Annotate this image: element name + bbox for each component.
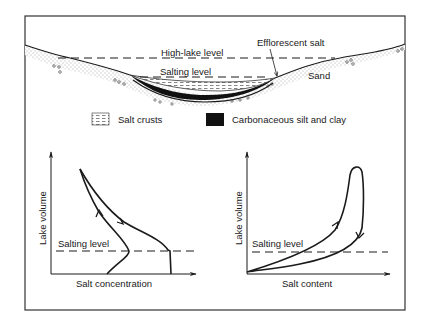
x-axis-label: Salt concentration <box>76 278 152 289</box>
salt-crusts-swatch <box>92 113 109 125</box>
salting-level-label: Salting level <box>58 238 109 249</box>
direction-arrow-up <box>332 222 338 229</box>
efflorescent-salt-label: Efflorescent salt <box>257 37 325 48</box>
sand-label: Sand <box>308 70 330 81</box>
y-axis-label: Lake volume <box>37 191 48 245</box>
carbonaceous-silt-swatch <box>206 113 224 126</box>
x-axis-label: Salt content <box>282 278 333 289</box>
diagram-canvas: High-lake level Salting level Effloresce… <box>0 0 425 324</box>
graph-salt-content: Salting level Lake volume Salt content <box>233 152 390 289</box>
legend-carbonaceous-label: Carbonaceous silt and clay <box>232 114 346 125</box>
y-axis-label: Lake volume <box>233 191 244 245</box>
hysteresis-loop <box>247 167 364 272</box>
efflorescent-salt-pointer <box>270 49 277 76</box>
graph-salt-concentration: Salting level Lake volume Salt concentra… <box>37 152 196 289</box>
legend: Salt crusts Carbonaceous silt and clay <box>92 113 346 126</box>
direction-arrow-down <box>117 218 123 224</box>
high-lake-level-label: High-lake level <box>161 47 223 58</box>
salting-level-label: Salting level <box>252 238 303 249</box>
lake-cross-section: High-lake level Salting level Effloresce… <box>25 37 405 106</box>
salting-level-label: Salting level <box>160 66 211 77</box>
legend-salt-crusts-label: Salt crusts <box>118 114 163 125</box>
